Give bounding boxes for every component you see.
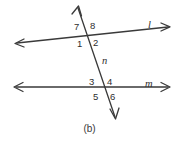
- angle-label-5: 5: [93, 92, 98, 102]
- line-n-bottom-arrowhead: [110, 108, 119, 119]
- figure-caption: (b): [0, 124, 179, 134]
- angle-label-1: 1: [77, 39, 82, 49]
- angle-label-7: 7: [74, 22, 79, 32]
- line-label-l: l: [148, 20, 151, 31]
- angle-label-8: 8: [90, 21, 95, 31]
- angle-label-2: 2: [93, 38, 98, 48]
- line-label-m: m: [145, 79, 153, 90]
- line-label-n: n: [102, 56, 107, 67]
- angle-label-6: 6: [110, 92, 115, 102]
- angle-label-4: 4: [107, 77, 112, 87]
- angle-label-3: 3: [89, 77, 94, 87]
- geometry-figure: 7 8 1 2 3 4 5 6 l m n (b): [0, 0, 179, 144]
